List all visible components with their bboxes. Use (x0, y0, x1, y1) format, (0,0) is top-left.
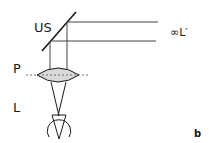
eye-cone (52, 115, 66, 139)
label-infinity-image: ∞L′ (170, 27, 188, 38)
label-lens: P (13, 62, 21, 75)
label-beam-splitter: US (34, 21, 52, 34)
eye-arc-right (69, 127, 71, 137)
ray-converging-left (51, 82, 59, 116)
eye-arc (48, 120, 70, 127)
label-eye: L (13, 101, 20, 114)
eye-arc-left (47, 127, 49, 137)
optical-diagram (0, 0, 209, 143)
panel-label: b (194, 129, 201, 139)
ray-converging-right (58, 82, 66, 116)
